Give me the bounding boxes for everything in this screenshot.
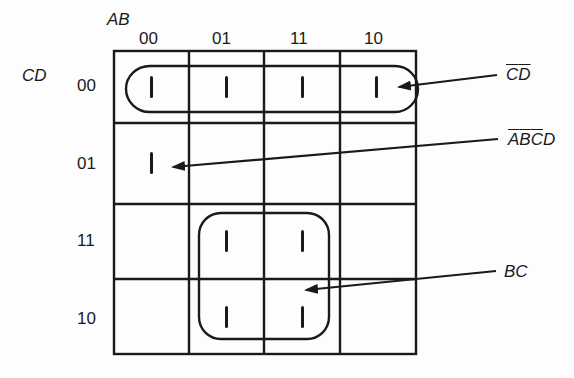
column-variables-label: AB xyxy=(107,11,130,28)
cell-value-one xyxy=(150,152,153,174)
row-header: 00 xyxy=(77,77,96,94)
column-header: 00 xyxy=(139,30,158,47)
term-label-cd-bar: CD xyxy=(506,66,531,83)
column-header: 11 xyxy=(290,30,308,47)
pointer-arrows xyxy=(173,75,498,290)
term-label-abcd: ABCD xyxy=(508,131,555,148)
cell-value-one xyxy=(301,230,304,252)
column-header: 01 xyxy=(212,30,231,47)
row-header: 01 xyxy=(77,155,96,172)
cell-value-one xyxy=(150,76,153,98)
kmap-grid xyxy=(114,51,416,354)
cell-value-one xyxy=(301,76,304,98)
cell-value-one xyxy=(375,76,378,98)
cell-value-one xyxy=(225,76,228,98)
column-header: 10 xyxy=(364,30,383,47)
cell-value-one xyxy=(225,306,228,328)
cell-value-one xyxy=(301,306,304,328)
row-header: 10 xyxy=(77,310,96,327)
row-variables-label: CD xyxy=(22,67,47,84)
karnaugh-map-diagram: AB CD 00 01 11 10 00 01 11 10 CD ABCD BC xyxy=(0,0,574,378)
row-header: 11 xyxy=(77,232,95,249)
term-label-bc: BC xyxy=(504,263,528,280)
cell-value-one xyxy=(225,230,228,252)
